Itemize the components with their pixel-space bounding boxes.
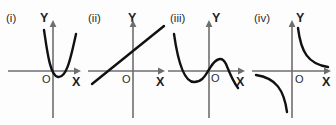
panel-iii-y-axis-label: Y	[212, 11, 221, 25]
panel-iv-curve-branch-lower	[256, 75, 287, 112]
panel-iv-roman-label: (iv)	[254, 12, 270, 24]
graph-panel-ii: (ii) Y O X	[84, 0, 168, 125]
panel-iv-x-axis-label: X	[322, 75, 331, 89]
panel-ii-roman-label: (ii)	[88, 12, 101, 24]
panel-iv-y-axis	[289, 20, 296, 118]
panel-iv-curve-branch-upper	[298, 28, 328, 67]
panel-i-roman-label: (i)	[6, 12, 16, 24]
panel-iii-origin-label: O	[211, 72, 220, 84]
panel-ii-origin-label: O	[122, 73, 131, 85]
graph-figure: (i) Y O X (ii) Y	[0, 0, 336, 125]
panel-i-origin-label: O	[42, 73, 51, 85]
panel-ii-x-axis-label: X	[156, 75, 165, 89]
graph-panel-iii: (iii) Y O X	[168, 0, 252, 125]
panel-iii-curve-cubic	[174, 34, 238, 88]
panel-iv-y-axis-label: Y	[296, 11, 305, 25]
graph-panel-i: (i) Y O X	[0, 0, 84, 125]
panel-iv-origin-label: O	[295, 73, 304, 85]
panel-iii-roman-label: (iii)	[170, 12, 185, 24]
panel-ii-y-axis	[130, 20, 137, 118]
panel-i-y-axis-label: Y	[40, 11, 49, 25]
panel-i-x-axis-label: X	[72, 75, 81, 89]
panel-i-curve-parabola	[44, 30, 76, 77]
graph-panel-iv: (iv) Y O X	[252, 0, 336, 125]
